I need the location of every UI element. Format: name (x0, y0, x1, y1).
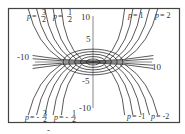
x-tick-pos10: 10 (152, 62, 162, 72)
y-tick-neg5: -5 (82, 76, 90, 86)
x-tick-neg10: -10 (17, 52, 29, 62)
svg-text:p= -: p= - (53, 113, 69, 122)
y-tick-pos10: 10 (81, 12, 91, 22)
label-p-neg1: p= -1 (126, 112, 145, 121)
label-p-3-2: p= 3 2 (26, 8, 46, 24)
parametric-curves-chart: -10 10 10 5 -5 -10 p= 3 2 p= 1 2 p= 1 p=… (0, 0, 185, 134)
label-p-neg-1-2: p= - 1 2 (53, 109, 76, 124)
label-p-neg-3-2: p= - 3 2 (24, 109, 47, 124)
y-tick-pos5: 5 (86, 34, 91, 44)
label-p-1: p= 1 (127, 11, 144, 20)
caption-fragment: - (47, 125, 50, 134)
branch-curve (45, 65, 71, 115)
svg-text:2: 2 (42, 15, 46, 24)
svg-text:p=: p= (26, 12, 37, 21)
branch-curve (115, 65, 141, 115)
label-p-2: p= 2 (154, 11, 171, 20)
label-p-neg2: p= -2 (150, 112, 169, 121)
svg-text:2: 2 (43, 115, 47, 124)
svg-text:2: 2 (68, 15, 72, 24)
branch-curve (105, 9, 125, 59)
y-tick-neg10: -10 (79, 103, 91, 113)
branch-curve (105, 65, 125, 115)
svg-text:2: 2 (72, 115, 76, 124)
svg-text:p= -: p= - (24, 113, 40, 122)
svg-text:p=: p= (52, 12, 63, 21)
